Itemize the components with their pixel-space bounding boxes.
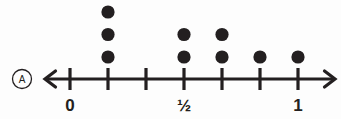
- tick-label-group: 0 ½ 1: [65, 96, 302, 115]
- tick-label-zero: 0: [65, 96, 74, 115]
- number-line-plot: A 0 ½ 1: [0, 0, 341, 119]
- data-dot: [253, 50, 266, 63]
- data-dot: [101, 28, 114, 41]
- data-dot: [177, 28, 190, 41]
- series-badge-letter: A: [19, 74, 26, 85]
- data-dot: [215, 50, 228, 63]
- series-label-badge: A: [13, 70, 32, 89]
- tick-label-one: 1: [293, 96, 302, 115]
- dot-plot-figure: A 0 ½ 1: [0, 0, 341, 119]
- data-dot: [215, 28, 228, 41]
- data-dot: [101, 5, 114, 18]
- data-dot: [291, 50, 304, 63]
- data-dot: [177, 50, 190, 63]
- data-dot: [101, 50, 114, 63]
- tick-label-one-half: ½: [177, 96, 191, 115]
- data-dot-layer: [101, 5, 304, 63]
